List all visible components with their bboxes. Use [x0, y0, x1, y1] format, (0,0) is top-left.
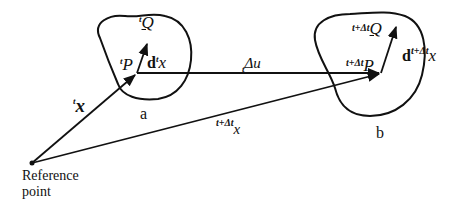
label-tP-main: P: [123, 55, 133, 74]
label-dttx: dt+Δtx: [402, 47, 436, 64]
reference-point-line2: point: [22, 184, 79, 200]
label-du-sub: t: [242, 64, 245, 74]
reference-point-line1: Reference: [22, 168, 79, 184]
label-tx-main: x: [76, 95, 86, 116]
label-dttx-sup: t+Δt: [411, 45, 429, 56]
label-dtx-d: d: [147, 54, 156, 71]
label-ttQ: t+ΔtQ: [352, 17, 382, 34]
label-tx: tx: [73, 96, 85, 115]
label-tP-sup: t: [120, 56, 123, 66]
label-ttP-sup: t+Δt: [346, 57, 364, 68]
label-ttP-main: P: [364, 56, 374, 75]
label-du-main: Δu: [245, 55, 261, 71]
label-dtx: dtx: [147, 54, 166, 71]
label-dttx-d: d: [402, 47, 411, 64]
label-tP: tP: [120, 56, 133, 73]
label-ttP: t+ΔtP: [346, 52, 374, 69]
label-du: tΔu: [242, 55, 261, 71]
reference-point-label: Reference point: [22, 168, 79, 200]
label-dttx-main: x: [428, 46, 436, 65]
label-body-b: b: [376, 125, 384, 141]
label-ttx: t+Δtx: [216, 113, 240, 129]
label-tQ-sup: t: [139, 14, 142, 24]
label-ttQ-main: Q: [370, 19, 382, 38]
label-tx-sup: t: [73, 96, 76, 106]
label-tQ-main: Q: [142, 13, 154, 32]
vector-dtx: [137, 44, 147, 73]
vector-dttx: [381, 27, 396, 73]
label-body-a: a: [140, 106, 147, 122]
label-tQ: tQ: [139, 14, 154, 31]
label-dtx-main: x: [158, 53, 166, 72]
label-ttQ-sup: t+Δt: [352, 22, 370, 33]
label-ttx-main: x: [234, 121, 241, 137]
label-ttx-sup: t+Δt: [216, 117, 234, 128]
